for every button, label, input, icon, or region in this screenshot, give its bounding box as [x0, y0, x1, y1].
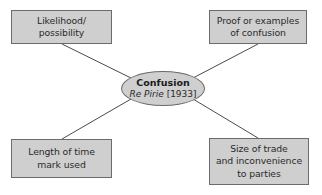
node-line: of confusion [230, 27, 286, 40]
node-likelihood-possibility: Likelihood/ possibility [11, 10, 112, 44]
case-name: Re Pirie [129, 89, 163, 99]
connector-top-right [193, 44, 258, 78]
connector-top-left [62, 44, 131, 78]
center-case-citation: Re Pirie [1933] [129, 89, 196, 100]
connector-bottom-right [193, 99, 258, 138]
node-line: mark used [37, 159, 85, 172]
center-node-confusion: Confusion Re Pirie [1933] [121, 71, 205, 106]
node-length-of-time: Length of time mark used [11, 139, 112, 178]
node-line: possibility [39, 27, 85, 40]
center-title: Confusion [136, 77, 189, 89]
node-line: Size of trade [230, 143, 287, 156]
case-year: [1933] [167, 89, 197, 99]
connector-bottom-left [62, 99, 131, 139]
node-line: and inconvenience [216, 155, 302, 168]
node-line: Likelihood/ [37, 15, 86, 28]
node-size-of-trade: Size of trade and inconvenience to parti… [209, 138, 309, 185]
node-line: Proof or examples [217, 15, 299, 28]
node-line: to parties [237, 168, 281, 181]
node-proof-of-confusion: Proof or examples of confusion [209, 10, 307, 44]
node-line: Length of time [28, 146, 95, 159]
